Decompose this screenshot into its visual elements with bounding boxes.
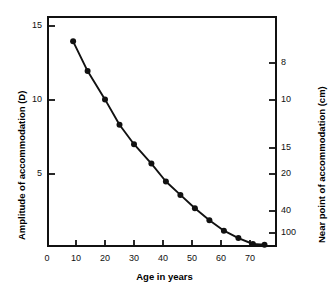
accommodation-amplitude-chart: 15 10 5 8 10 15 20 40 100 0 10 20 30 40 … bbox=[0, 0, 329, 294]
x-axis-ticks bbox=[76, 240, 250, 247]
y-axis-right-tick-label: 20 bbox=[281, 169, 307, 178]
y-axis-right-tick-label: 8 bbox=[281, 58, 307, 67]
y-axis-left-title: Amplitude of accommodation (D) bbox=[17, 91, 27, 240]
x-axis-tick-label: 30 bbox=[123, 254, 145, 263]
y-axis-right-ticks bbox=[269, 63, 277, 233]
y-axis-left-tick-label: 15 bbox=[20, 21, 42, 30]
chart-graphics bbox=[0, 0, 329, 294]
data-points bbox=[70, 38, 267, 248]
x-axis-tick-label: 50 bbox=[181, 254, 203, 263]
y-axis-right-title: Near point of accommodation (cm) bbox=[317, 86, 327, 243]
x-axis-tick-label: 10 bbox=[65, 254, 87, 263]
x-axis-tick-label: 0 bbox=[36, 254, 58, 263]
y-axis-right-tick-label: 100 bbox=[281, 228, 307, 237]
x-axis-tick-label: 40 bbox=[152, 254, 174, 263]
x-axis-title: Age in years bbox=[0, 272, 329, 282]
x-axis-tick-label: 20 bbox=[94, 254, 116, 263]
x-axis-tick-label: 70 bbox=[239, 254, 261, 263]
data-curve bbox=[73, 41, 264, 245]
y-axis-right-tick-label: 15 bbox=[281, 143, 307, 152]
y-axis-right-tick-label: 10 bbox=[281, 95, 307, 104]
y-axis-left-ticks bbox=[47, 26, 55, 174]
x-axis-tick-label: 60 bbox=[210, 254, 232, 263]
y-axis-right-tick-label: 40 bbox=[281, 206, 307, 215]
